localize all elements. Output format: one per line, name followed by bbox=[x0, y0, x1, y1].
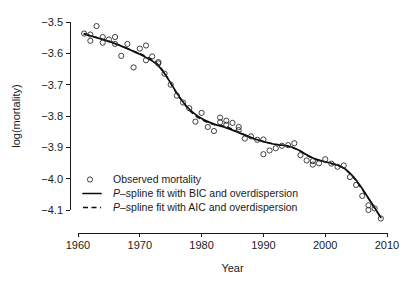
legend-label-bic: P–spline fit with BIC and overdispersion bbox=[113, 187, 298, 199]
x-tick-label: 1970 bbox=[128, 239, 152, 251]
y-tick-label: −3.5 bbox=[41, 16, 63, 28]
legend-label-observed: Observed mortality bbox=[113, 173, 202, 185]
mortality-chart: −3.5−3.6−3.7−3.8−3.9−4.0−4.1 19601970198… bbox=[0, 0, 416, 291]
y-tick-label: −3.6 bbox=[41, 47, 63, 59]
y-tick-label: −3.9 bbox=[41, 141, 63, 153]
x-tick-label: 2010 bbox=[375, 239, 399, 251]
y-tick-label: −3.7 bbox=[41, 79, 63, 91]
x-axis-title: Year bbox=[221, 262, 244, 274]
y-axis-title: log(mortality) bbox=[10, 84, 22, 148]
x-tick-label: 1980 bbox=[189, 239, 213, 251]
y-tick-label: −4.1 bbox=[41, 204, 63, 216]
y-tick-label: −3.8 bbox=[41, 110, 63, 122]
legend-label-aic: P–spline fit with AIC and overdispersion bbox=[113, 201, 298, 213]
x-tick-label: 2000 bbox=[313, 239, 337, 251]
y-tick-label: −4.0 bbox=[41, 173, 63, 185]
x-tick-label: 1990 bbox=[251, 239, 275, 251]
x-tick-label: 1960 bbox=[66, 239, 90, 251]
